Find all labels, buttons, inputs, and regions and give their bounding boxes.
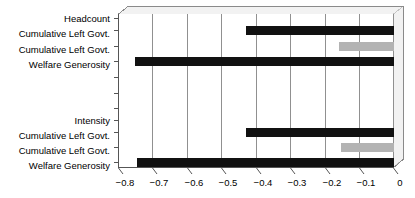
category-label-welfare-generosity-2: Welfare Generosity: [29, 160, 110, 171]
bar-intensity-welfare-generosity[interactable]: [137, 158, 394, 167]
category-label-cumulative-left-govt-1: Cumulative Left Govt.: [19, 28, 110, 39]
bar-headcount-cumulative-left-govt-light[interactable]: [339, 42, 394, 51]
category-label-welfare-generosity-1: Welfare Generosity: [29, 59, 110, 70]
bar-headcount-welfare-generosity[interactable]: [135, 57, 394, 66]
x-tick-label-6: −0.2: [323, 177, 342, 188]
category-label-intensity: Intensity: [75, 115, 111, 126]
x-axis-tick-labels: −0.8 −0.7 −0.6 −0.5 −0.4 −0.3 −0.2 −0.1 …: [116, 177, 403, 188]
x-tick-label-7: −0.1: [357, 177, 376, 188]
bar-headcount-cumulative-left-govt-dark[interactable]: [246, 26, 394, 35]
x-tick-label-2: −0.6: [185, 177, 204, 188]
x-tick-label-3: −0.5: [219, 177, 238, 188]
bar-intensity-cumulative-left-govt-dark[interactable]: [246, 128, 394, 137]
x-tick-label-8: 0: [397, 177, 402, 188]
chart-container: Headcount Cumulative Left Govt. Cumulati…: [0, 0, 415, 198]
category-label-cumulative-left-govt-2: Cumulative Left Govt.: [19, 44, 110, 55]
category-label-cumulative-left-govt-3: Cumulative Left Govt.: [19, 130, 110, 141]
category-labels: Headcount Cumulative Left Govt. Cumulati…: [19, 13, 111, 171]
panel-right-face: [394, 6, 404, 167]
panel-top-face: [118, 6, 404, 14]
x-tick-label-4: −0.4: [254, 177, 273, 188]
x-tick-label-0: −0.8: [116, 177, 135, 188]
bar-intensity-cumulative-left-govt-light[interactable]: [341, 143, 395, 152]
category-label-cumulative-left-govt-4: Cumulative Left Govt.: [19, 145, 110, 156]
horizontal-bar-chart: Headcount Cumulative Left Govt. Cumulati…: [0, 0, 415, 198]
x-tick-label-5: −0.3: [288, 177, 307, 188]
y-axis-ticks: [114, 19, 119, 163]
x-tick-label-1: −0.7: [150, 177, 169, 188]
category-label-headcount: Headcount: [64, 13, 110, 24]
x-axis-ticks: [119, 168, 399, 174]
